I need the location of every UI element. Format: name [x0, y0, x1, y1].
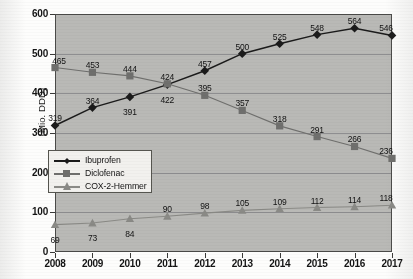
data-label: 105: [235, 198, 249, 208]
x-tick-mark: [167, 253, 168, 258]
data-label: 90: [163, 204, 172, 214]
data-label: 564: [348, 16, 362, 26]
data-label: 444: [123, 64, 137, 74]
x-tick-mark: [205, 253, 206, 258]
x-tick-mark: [92, 253, 93, 258]
data-label: 118: [380, 193, 393, 203]
data-label: 69: [50, 235, 59, 245]
y-tick-label: 600: [12, 8, 48, 19]
data-label: 364: [86, 96, 100, 106]
x-tick-mark: [55, 253, 56, 258]
data-label: 525: [273, 32, 287, 42]
data-label: 453: [86, 60, 100, 70]
data-label: 73: [88, 233, 97, 243]
data-label: 109: [273, 197, 287, 207]
data-label: 500: [235, 42, 249, 52]
data-label: 266: [348, 134, 362, 144]
data-label: 457: [198, 59, 212, 69]
data-label: 236: [379, 146, 393, 156]
x-tick-mark: [355, 253, 356, 258]
data-label: 112: [311, 196, 324, 206]
data-label: 391: [123, 107, 137, 117]
data-label: 422: [161, 95, 175, 105]
data-label: 424: [161, 72, 175, 82]
gridline: [56, 54, 391, 55]
chart-legend: Ibuprofen Diclofenac COX-2-Hemmer: [48, 150, 152, 193]
y-tick-label: 0: [12, 246, 48, 257]
x-tick-label: 2017: [369, 258, 413, 269]
data-label: 318: [273, 114, 287, 124]
data-label: 548: [310, 23, 324, 33]
x-tick-mark: [130, 253, 131, 258]
x-tick-mark: [280, 253, 281, 258]
plot-area: [55, 14, 392, 252]
data-label: 114: [348, 195, 361, 205]
triangle-icon: [54, 181, 80, 192]
diamond-icon: [54, 155, 80, 166]
data-label: 395: [198, 83, 212, 93]
y-tick-label: 500: [12, 48, 48, 59]
line-chart: (Mio. DDD) 6005004003002001000 200820092…: [0, 0, 413, 279]
legend-label-cox2: COX-2-Hemmer: [85, 181, 147, 192]
y-tick-label: 100: [12, 206, 48, 217]
gridline: [56, 133, 391, 134]
legend-label-ibuprofen: Ibuprofen: [85, 155, 121, 166]
data-label: 291: [310, 125, 324, 135]
y-tick-label: 200: [12, 167, 48, 178]
gridline: [56, 93, 391, 94]
square-icon: [54, 168, 80, 179]
data-label: 546: [379, 23, 393, 33]
legend-item-cox2: COX-2-Hemmer: [54, 180, 147, 193]
legend-item-ibuprofen: Ibuprofen: [54, 154, 147, 167]
data-label: 84: [125, 229, 134, 239]
x-tick-mark: [242, 253, 243, 258]
legend-label-diclofenac: Diclofenac: [85, 168, 125, 179]
data-label: 98: [200, 201, 209, 211]
y-axis-title: (Mio. DDD): [36, 67, 50, 157]
gridline: [56, 212, 391, 213]
data-label: 465: [52, 56, 66, 66]
legend-item-diclofenac: Diclofenac: [54, 167, 147, 180]
data-label: 357: [235, 98, 249, 108]
y-tick-label: 300: [12, 127, 48, 138]
x-tick-mark: [317, 253, 318, 258]
data-label: 319: [48, 113, 62, 123]
x-tick-mark: [392, 253, 393, 258]
y-tick-label: 400: [12, 87, 48, 98]
